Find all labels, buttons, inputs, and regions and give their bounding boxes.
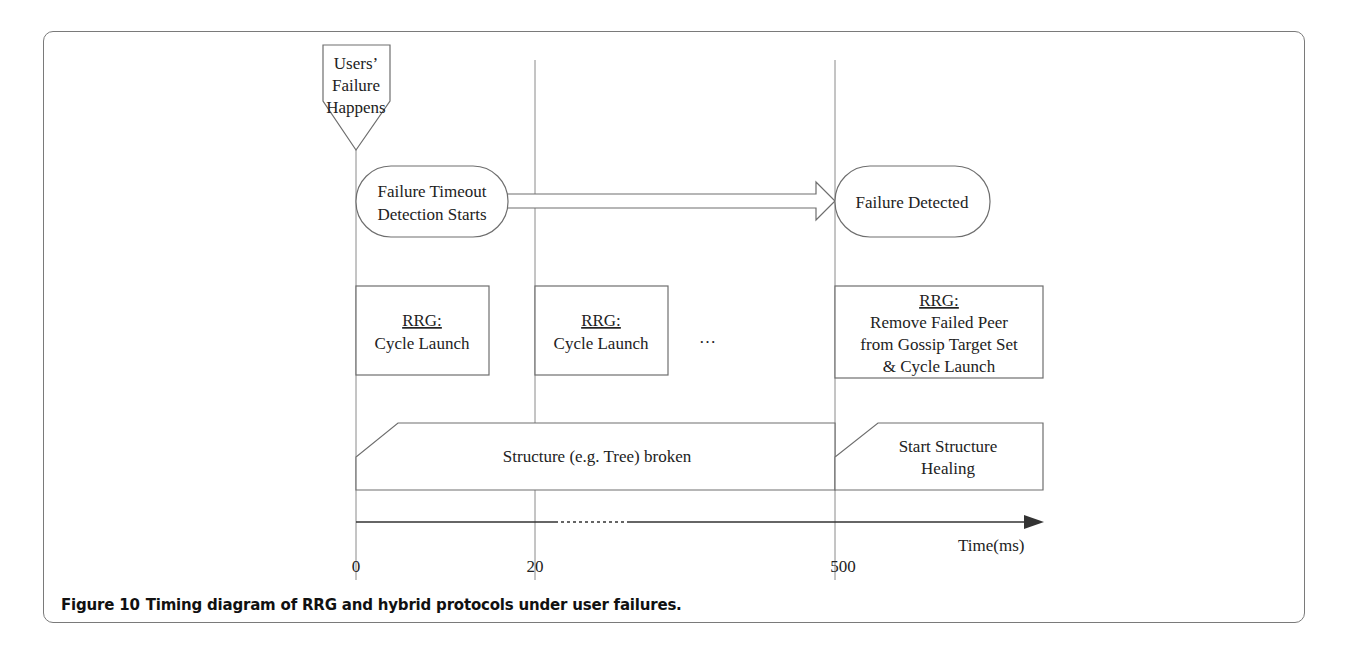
ellipsis: … xyxy=(699,328,716,347)
rrg-box-3-line-3: & Cycle Launch xyxy=(883,357,996,376)
rrg-box-3-line-1: Remove Failed Peer xyxy=(870,313,1008,332)
rrg-box-3-line-2: from Gossip Target Set xyxy=(860,335,1018,354)
structure-healing-bar: Start Structure Healing xyxy=(835,423,1043,490)
tick-0: 0 xyxy=(352,557,361,576)
rrg-box-2-heading: RRG: xyxy=(581,311,621,330)
rrg-box-1-heading: RRG: xyxy=(402,311,442,330)
figure-number: Figure 10 xyxy=(61,596,140,614)
detection-arrow xyxy=(505,182,835,220)
figure-caption: Figure 10Timing diagram of RRG and hybri… xyxy=(61,596,682,614)
figure-caption-text: Timing diagram of RRG and hybrid protoco… xyxy=(146,596,682,614)
tick-500: 500 xyxy=(830,557,856,576)
failure-event-line-2: Failure xyxy=(332,76,380,95)
tick-20: 20 xyxy=(527,557,544,576)
failure-event-marker: Users’ Failure Happens xyxy=(323,45,390,150)
rrg-box-3-heading: RRG: xyxy=(919,291,959,310)
structure-healing-line-2: Healing xyxy=(921,459,975,478)
time-axis: Time(ms) 0 20 500 xyxy=(352,515,1044,576)
timing-diagram: Users’ Failure Happens Failure Timeout D… xyxy=(0,0,1353,655)
axis-label: Time(ms) xyxy=(958,536,1024,555)
axis-arrow-icon xyxy=(1024,515,1044,529)
failure-event-line-3: Happens xyxy=(326,98,385,117)
rrg-box-3: RRG: Remove Failed Peer from Gossip Targ… xyxy=(835,286,1043,378)
failure-detected-node: Failure Detected xyxy=(835,166,990,237)
failure-detected-label: Failure Detected xyxy=(856,193,969,212)
failure-event-line-1: Users’ xyxy=(334,54,378,73)
detection-start-line-2: Detection Starts xyxy=(377,205,486,224)
structure-broken-label: Structure (e.g. Tree) broken xyxy=(503,447,692,466)
detection-start-line-1: Failure Timeout xyxy=(377,182,486,201)
rrg-box-2: RRG: Cycle Launch xyxy=(535,286,668,375)
rrg-box-1: RRG: Cycle Launch xyxy=(356,286,489,375)
structure-broken-bar: Structure (e.g. Tree) broken xyxy=(356,423,835,490)
rrg-box-2-text: Cycle Launch xyxy=(554,334,649,353)
detection-start-node: Failure Timeout Detection Starts xyxy=(356,166,508,237)
rrg-box-1-text: Cycle Launch xyxy=(375,334,470,353)
structure-healing-line-1: Start Structure xyxy=(899,437,998,456)
